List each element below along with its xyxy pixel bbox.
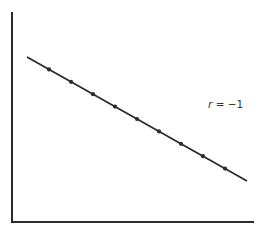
scatter-chart [0, 0, 261, 233]
annotation-value: −1 [228, 98, 243, 110]
data-point [179, 142, 183, 146]
data-point [201, 154, 205, 158]
data-point [91, 92, 95, 96]
data-point [47, 67, 51, 71]
data-point [135, 117, 139, 121]
data-point [113, 105, 117, 109]
data-point [223, 167, 227, 171]
data-point [69, 80, 73, 84]
data-point [157, 129, 161, 133]
correlation-annotation: r = −1 [208, 98, 243, 110]
annotation-equals: = [212, 98, 227, 110]
